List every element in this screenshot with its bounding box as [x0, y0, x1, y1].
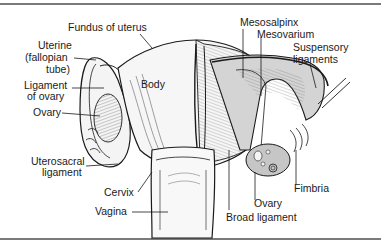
label-uterine-tube-line1: Uterine: [38, 40, 72, 51]
label-uterine-tube-line3: tube): [46, 64, 70, 75]
label-cervix: Cervix: [104, 187, 134, 198]
label-vagina: Vagina: [95, 206, 127, 217]
label-ovary-right: Ovary: [254, 198, 282, 209]
label-body: Body: [141, 79, 165, 90]
label-broad-ligament: Broad ligament: [226, 212, 297, 223]
anatomy-illustration: [0, 0, 381, 247]
label-suspensory-line2: ligaments: [293, 54, 338, 65]
label-uterine-tube-line2: (fallopian: [25, 52, 68, 63]
label-uterosacral-line2: ligament: [42, 167, 82, 178]
label-fimbria: Fimbria: [294, 183, 329, 194]
label-fundus-of-uterus: Fundus of uterus: [68, 22, 147, 33]
label-suspensory-line1: Suspensory: [293, 42, 348, 53]
label-mesosalpinx: Mesosalpinx: [240, 17, 298, 28]
label-mesovarium: Mesovarium: [257, 29, 314, 40]
label-ligament-of-ovary-line2: of ovary: [27, 91, 64, 102]
label-ovary-left: Ovary: [33, 107, 61, 118]
cervix-vagina: [151, 147, 215, 238]
